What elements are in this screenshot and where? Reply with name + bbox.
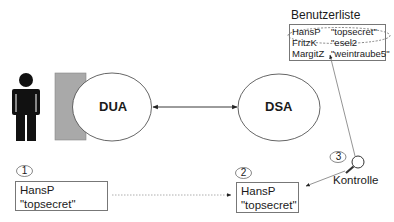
person-icon [12, 73, 40, 141]
user-list-password: "weintraube5" [331, 48, 390, 59]
credentials-user: HansP [20, 184, 103, 198]
dua-label: DUA [99, 99, 127, 114]
step-3-number: 3 [330, 151, 347, 162]
credentials-password: "topsecret" [241, 199, 294, 213]
user-list-title: Benutzerliste [291, 8, 360, 22]
credentials-box-client: HansP "topsecret" [15, 181, 108, 211]
user-list-password: "topsecret" [331, 26, 377, 37]
user-list-table: HansP "topsecret" FritzK "esel2 MargitZ … [289, 24, 386, 61]
step-2-number: 2 [235, 167, 252, 178]
step-1-number: 1 [16, 165, 33, 176]
dsa-label: DSA [265, 99, 292, 114]
credentials-box-server: HansP "topsecret" [236, 182, 299, 213]
magnifier-icon [346, 156, 364, 173]
credentials-user: HansP [241, 185, 294, 199]
lookup-arrow [330, 55, 355, 156]
user-list-password: "esel2 [331, 37, 357, 48]
check-caption: Kontrolle [333, 174, 378, 186]
user-list-user: FritzK [292, 37, 317, 48]
credentials-password: "topsecret" [20, 198, 103, 212]
user-list-user: HansP [292, 26, 321, 37]
user-list-user: MargitZ [292, 48, 324, 59]
